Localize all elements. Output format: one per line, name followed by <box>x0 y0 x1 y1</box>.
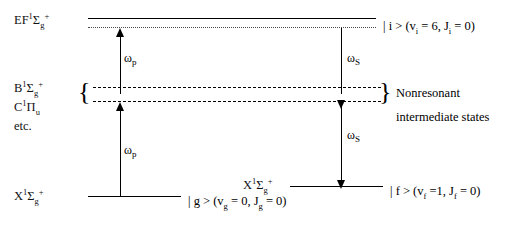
omega-s-lower-label: ωS <box>347 128 360 143</box>
omega-p-lower-subscript: p <box>132 149 137 159</box>
omega-p-upper-subscript: p <box>132 57 137 67</box>
omega-s-upper-symbol: ω <box>347 51 355 65</box>
ket-initial-state: | i > (vi = 6, Ji = 0) <box>383 19 475 34</box>
ef-term-main: EF <box>14 13 29 27</box>
x-final-term-main: X <box>243 178 252 192</box>
ef-level-dotted-line <box>88 27 376 28</box>
ground-level-line <box>88 196 181 197</box>
c-term-symbol: Π <box>27 100 36 114</box>
stokes-arrow-mid-head <box>337 100 345 109</box>
intermediate-level-dashed-upper <box>93 87 381 88</box>
omega-p-lower-label: ωp <box>124 143 136 158</box>
ef-term-charge: + <box>44 11 49 21</box>
ket-f-v-eq: =1, J <box>426 184 454 198</box>
ket-ground-state: | g > (vg = 0, Jg = 0) <box>188 194 286 209</box>
omega-p-lower-symbol: ω <box>124 143 132 157</box>
stokes-arrow-upper-shaft <box>341 28 342 94</box>
x-final-term-charge: + <box>268 176 273 186</box>
pump-arrow-upper-head <box>116 28 124 37</box>
stokes-arrow-lower-head <box>337 180 345 189</box>
x-final-term-symbol: Σ <box>256 178 263 192</box>
ground-state-label: X1Σg+ <box>14 190 44 203</box>
ket-g-j-eq: = 0) <box>263 194 287 208</box>
b-term-symbol: Σ <box>27 81 34 95</box>
nonresonant-annotation-line2: intermediate states <box>396 110 489 125</box>
ket-i-open: | i > (v <box>383 19 416 33</box>
c-term-sub: u <box>36 107 40 117</box>
energy-level-diagram: EF1Σg+ | i > (vi = 6, Ji = 0) { } B1Σg+ … <box>0 0 519 227</box>
etc-label: etc. <box>14 120 32 133</box>
ket-g-v-eq: = 0, J <box>228 194 259 208</box>
b-state-label: B1Σg+ <box>14 82 43 95</box>
nonresonant-annotation-line1: Nonresonant <box>396 86 460 101</box>
ket-final-state: | f > (vf =1, Jf = 0) <box>390 184 480 199</box>
omega-s-lower-subscript: S <box>355 134 360 144</box>
pump-arrow-lower-head <box>116 102 124 111</box>
ket-f-open: | f > (v <box>390 184 424 198</box>
intermediate-brace-right: } <box>379 79 391 105</box>
omega-s-lower-symbol: ω <box>347 128 355 142</box>
omega-p-upper-label: ωp <box>124 51 136 66</box>
x-ground-term-symbol: Σ <box>27 189 34 203</box>
stokes-arrow-lower-shaft <box>341 101 342 186</box>
ket-i-v-eq: = 6, J <box>418 19 449 33</box>
pump-arrow-lower-shaft <box>120 110 121 197</box>
ket-g-open: | g > (v <box>188 194 224 208</box>
omega-p-upper-symbol: ω <box>124 51 132 65</box>
c-state-label: C1Πu <box>14 101 40 114</box>
x-final-term-sub: g <box>264 185 268 195</box>
ket-f-j-eq: = 0) <box>457 184 481 198</box>
intermediate-brace-left: { <box>78 79 90 105</box>
omega-s-upper-label: ωS <box>347 51 360 66</box>
ef-state-label: EF1Σg+ <box>14 14 49 27</box>
x-ground-term-main: X <box>14 189 23 203</box>
x-ground-term-charge: + <box>39 187 44 197</box>
b-term-sub: g <box>34 88 38 98</box>
final-state-label: X1Σg+ <box>243 179 273 192</box>
ket-i-j-eq: = 0) <box>451 19 475 33</box>
x-ground-term-sub: g <box>35 196 39 206</box>
ef-level-solid-line <box>88 18 376 19</box>
b-term-charge: + <box>38 79 43 89</box>
ef-term-sub: g <box>40 20 44 30</box>
pump-arrow-upper-shaft <box>120 36 121 94</box>
omega-s-upper-subscript: S <box>355 57 360 67</box>
